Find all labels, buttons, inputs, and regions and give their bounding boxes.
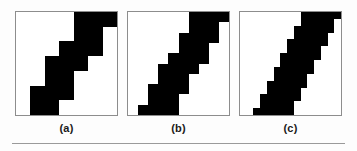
pixel-on <box>189 53 199 63</box>
pixel-off <box>158 33 168 43</box>
pixel-on <box>287 88 294 95</box>
pixel-off <box>189 74 199 84</box>
pixel-off <box>128 33 138 43</box>
pixel-off <box>314 88 321 95</box>
pixel-on <box>280 94 287 101</box>
pixel-off <box>321 101 328 108</box>
pixel-on <box>30 100 44 115</box>
pixel-on <box>307 46 314 53</box>
pixel-off <box>103 71 117 86</box>
pixel-on <box>294 67 301 74</box>
pixel-off <box>179 94 189 104</box>
pixel-off <box>334 53 341 60</box>
pixel-off <box>307 74 314 81</box>
pixel-on <box>88 27 102 42</box>
pixel-on <box>307 39 314 46</box>
pixel-on <box>287 81 294 88</box>
pixel-on <box>274 67 281 74</box>
pixel-on <box>45 86 59 101</box>
pixel-off <box>280 12 287 19</box>
pixel-off <box>321 53 328 60</box>
pixel-on <box>287 74 294 81</box>
pixel-on <box>74 12 88 27</box>
pixel-off <box>247 74 254 81</box>
pixel-off <box>267 19 274 26</box>
pixel-on <box>158 105 168 115</box>
pixel-on <box>199 22 209 32</box>
pixel-on <box>301 74 308 81</box>
pixel-off <box>328 88 335 95</box>
pixel-off <box>199 84 209 94</box>
pixel-on <box>189 22 199 32</box>
panel-label-b: (b) <box>127 119 230 137</box>
pixel-on <box>179 53 189 63</box>
pixel-off <box>45 41 59 56</box>
pixel-off <box>253 26 260 33</box>
pixel-on <box>179 64 189 74</box>
pixel-off <box>301 101 308 108</box>
pixel-off <box>240 26 247 33</box>
pixel-off <box>30 41 44 56</box>
pixel-off <box>267 67 274 74</box>
pixel-on <box>267 101 274 108</box>
pixel-off <box>88 56 102 71</box>
pixel-off <box>219 33 229 43</box>
pixel-off <box>334 26 341 33</box>
pixel-off <box>267 74 274 81</box>
pixel-off <box>158 12 168 22</box>
pixel-on <box>334 12 341 19</box>
pixel-off <box>219 84 229 94</box>
pixel-on <box>280 108 287 115</box>
pixel-off <box>253 39 260 46</box>
pixel-off <box>247 94 254 101</box>
pixel-off <box>274 33 281 40</box>
pixel-on <box>280 67 287 74</box>
pixel-off <box>267 60 274 67</box>
pixel-off <box>260 33 267 40</box>
pixel-off <box>45 12 59 27</box>
pixel-on <box>301 60 308 67</box>
pixel-on <box>301 12 308 19</box>
pixel-off <box>16 71 30 86</box>
pixel-on <box>314 26 321 33</box>
pixel-off <box>30 71 44 86</box>
pixel-on <box>307 53 314 60</box>
pixel-off <box>189 105 199 115</box>
pixel-on <box>307 33 314 40</box>
pixel-on <box>209 12 219 22</box>
pixel-off <box>280 26 287 33</box>
pixel-off <box>260 39 267 46</box>
pixel-on <box>138 105 148 115</box>
pixel-off <box>287 33 294 40</box>
pixel-on <box>280 53 287 60</box>
pixel-on <box>148 94 158 104</box>
pixel-off <box>253 60 260 67</box>
pixel-off <box>253 33 260 40</box>
panel-label-a: (a) <box>15 119 118 137</box>
pixel-off <box>16 100 30 115</box>
pixel-off <box>267 33 274 40</box>
pixel-off <box>328 101 335 108</box>
pixel-off <box>209 64 219 74</box>
pixel-on <box>74 27 88 42</box>
pixel-off <box>334 33 341 40</box>
pixel-off <box>294 101 301 108</box>
pixel-off <box>287 26 294 33</box>
pixel-off <box>294 19 301 26</box>
pixel-off <box>267 39 274 46</box>
pixel-on <box>209 22 219 32</box>
pixel-off <box>321 108 328 115</box>
pixel-off <box>128 84 138 94</box>
pixel-on <box>267 88 274 95</box>
pixel-off <box>314 81 321 88</box>
pixel-off <box>247 60 254 67</box>
pixel-on <box>287 46 294 53</box>
pixel-off <box>219 22 229 32</box>
pixel-off <box>148 53 158 63</box>
pixel-on <box>168 84 178 94</box>
figure-three-resolution-diagonals: (a) (b) (c) <box>0 0 357 151</box>
pixel-on <box>260 108 267 115</box>
pixel-off <box>294 12 301 19</box>
pixel-off <box>209 43 219 53</box>
pixel-off <box>247 67 254 74</box>
